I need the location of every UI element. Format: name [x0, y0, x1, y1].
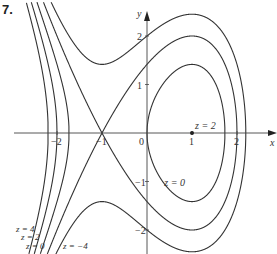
x-axis-arrow-icon	[268, 130, 277, 136]
x-tick-label: 2	[234, 136, 239, 147]
x-tick-label: −1	[96, 136, 107, 147]
y-tick-label: 1	[137, 80, 142, 91]
y-axis-label: y	[136, 8, 142, 19]
level-label: z = 0	[25, 241, 45, 251]
y-tick-label: −1	[135, 177, 146, 188]
axis-labels: −2−101221−1−2xy	[51, 8, 275, 236]
contour-plot: −2−101221−1−2xy z = 2z = 0z = 4z = 2z = …	[0, 0, 277, 254]
y-axis-arrow-icon	[144, 11, 150, 21]
level-curve-upper	[44, 2, 238, 133]
marked-point	[190, 131, 194, 135]
level-label: z = −4	[62, 241, 88, 251]
x-tick-label: −2	[51, 136, 62, 147]
y-tick-label: 2	[137, 31, 142, 42]
x-tick-label: 1	[189, 136, 194, 147]
x-axis-label: x	[269, 137, 275, 148]
x-tick-label: 0	[139, 136, 144, 147]
annotations: z = 2z = 0z = 4z = 2z = 0z = −4	[15, 120, 216, 251]
inner-level-label: z = 0	[163, 177, 185, 188]
point-label: z = 2	[194, 120, 216, 131]
y-tick-label: −2	[135, 225, 146, 236]
